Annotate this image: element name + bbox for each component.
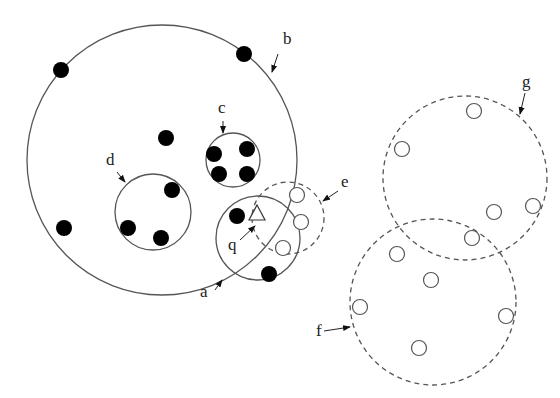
filled-point — [53, 62, 69, 78]
filled-points-layer — [53, 46, 277, 282]
regions-layer — [27, 25, 547, 385]
label-a: a — [200, 282, 208, 301]
hollow-points-layer — [276, 104, 541, 356]
hollow-point — [276, 241, 291, 256]
hollow-point — [353, 300, 368, 315]
filled-point — [120, 220, 136, 236]
query-point-layer — [249, 205, 265, 220]
hollow-point — [294, 215, 309, 230]
region-f — [350, 219, 516, 385]
arrow-g-icon — [520, 93, 525, 114]
arrow-b-icon — [272, 54, 278, 72]
hollow-point — [465, 231, 480, 246]
filled-point — [56, 220, 72, 236]
filled-point — [153, 230, 169, 246]
hollow-point — [499, 309, 514, 324]
arrow-q-icon — [240, 226, 255, 240]
filled-point — [164, 182, 180, 198]
cluster-diagram: bcdaegfq — [0, 0, 560, 398]
hollow-point — [467, 104, 482, 119]
label-d: d — [106, 150, 115, 169]
label-c: c — [218, 98, 226, 117]
hollow-point — [424, 273, 439, 288]
arrow-a-icon — [215, 280, 222, 290]
hollow-point — [526, 199, 541, 214]
hollow-point — [412, 341, 427, 356]
arrow-d-icon — [117, 172, 125, 182]
hollow-point — [390, 247, 405, 262]
arrow-e-icon — [323, 191, 338, 201]
hollow-point — [395, 142, 410, 157]
label-q: q — [228, 235, 237, 254]
label-g: g — [522, 72, 531, 91]
filled-point — [229, 208, 245, 224]
hollow-point — [290, 188, 305, 203]
arrow-f-icon — [324, 327, 350, 331]
query-triangle-icon — [249, 205, 265, 220]
filled-point — [158, 130, 174, 146]
filled-point — [236, 46, 252, 62]
filled-point — [239, 141, 255, 157]
filled-point — [206, 146, 222, 162]
label-b: b — [283, 29, 292, 48]
label-e: e — [341, 172, 349, 191]
filled-point — [261, 266, 277, 282]
filled-point — [239, 166, 255, 182]
filled-point — [211, 166, 227, 182]
hollow-point — [487, 205, 502, 220]
diagram-canvas: bcdaegfq — [0, 0, 560, 398]
label-f: f — [316, 321, 322, 340]
region-d — [115, 174, 191, 250]
